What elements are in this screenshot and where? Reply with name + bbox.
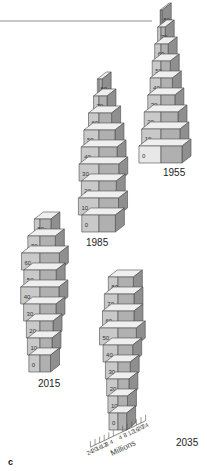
age-block-0: 0	[139, 139, 191, 163]
year-label-1955: 1955	[163, 167, 186, 178]
panel-letter: c	[8, 457, 13, 467]
year-label-2015: 2015	[38, 378, 61, 389]
female-bar	[99, 215, 115, 232]
axis-title: Millions	[109, 438, 137, 457]
pyramids-group: 80+70605040302010080+70605040302010080+7…	[21, 3, 191, 430]
pyramid-2015: 80+706050403020100	[21, 212, 69, 372]
pyramid-2035: 80+706050403020100	[100, 270, 146, 430]
age-label: 50	[103, 335, 110, 341]
female-bar	[40, 355, 51, 372]
female-bar	[161, 146, 182, 163]
age-block-0: 0	[82, 208, 125, 232]
pyramid-1955: 80+706050403020100	[139, 3, 191, 163]
year-label-1985: 1985	[86, 237, 109, 248]
pyramid-1985: 80+706050403020100	[78, 72, 127, 232]
year-label-2035: 2035	[176, 437, 199, 448]
axis-tick-label: 4	[109, 438, 115, 445]
age-block-0: 0	[29, 348, 60, 372]
population-pyramids-diagram: 80+70605040302010080+70605040302010080+7…	[0, 0, 207, 471]
